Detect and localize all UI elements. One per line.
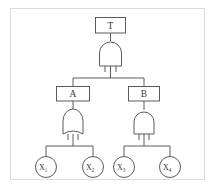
- intermediate-label-a: A: [70, 89, 77, 99]
- basic-event-x1[interactable]: X1: [36, 157, 57, 178]
- intermediate-event-b[interactable]: B: [129, 87, 160, 102]
- top-event-node[interactable]: T: [96, 18, 126, 34]
- basic-event-x3[interactable]: X3: [114, 157, 135, 178]
- and-gate-shape[interactable]: [100, 42, 122, 66]
- and-gate-shape-b[interactable]: [134, 112, 154, 134]
- fault-tree-diagram: T A B X1: [0, 0, 215, 190]
- gate-b-and[interactable]: [134, 112, 154, 134]
- or-gate-shape[interactable]: [63, 109, 83, 134]
- intermediate-label-b: B: [141, 89, 147, 99]
- basic-event-x2[interactable]: X2: [83, 157, 104, 178]
- top-event-label: T: [108, 21, 114, 31]
- fault-tree-figure: T A B X1: [0, 0, 215, 190]
- basic-event-x4[interactable]: X4: [160, 157, 181, 178]
- intermediate-event-a[interactable]: A: [57, 87, 90, 102]
- gate-a-or[interactable]: [63, 109, 83, 134]
- gate-top-and[interactable]: [100, 42, 122, 66]
